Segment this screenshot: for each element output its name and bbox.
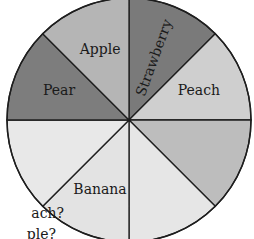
question-text-1: ach?: [0, 205, 64, 221]
slice-label-peach: Peach: [178, 82, 220, 98]
pie-chart: StrawberryPeachBananaPearApple: [0, 0, 254, 239]
question-text-2: ple?: [0, 226, 56, 239]
slice-label-apple: Apple: [79, 41, 121, 57]
slice-label-banana: Banana: [73, 181, 126, 197]
slice-label-pear: Pear: [43, 82, 75, 98]
pie-slices: [7, 0, 251, 239]
